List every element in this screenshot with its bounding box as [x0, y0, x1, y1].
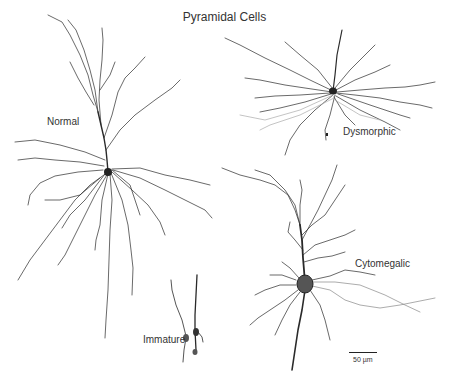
neuron-tracings [0, 0, 449, 374]
scale-bar-label: 50 µm [353, 356, 373, 363]
dysmorphic-neuron-tracing [225, 30, 435, 155]
label-cytomegalic: Cytomegalic [355, 258, 410, 269]
immature-neuron-tracing [171, 275, 203, 362]
pyramidal-cells-figure: Pyramidal Cells Normal Immature Dysmorph… [0, 0, 449, 374]
label-immature: Immature [143, 334, 185, 345]
label-dysmorphic: Dysmorphic [343, 126, 396, 137]
scale-bar [349, 352, 377, 353]
normal-neuron-tracing [15, 15, 212, 338]
label-normal: Normal [47, 116, 79, 127]
figure-title: Pyramidal Cells [0, 10, 449, 24]
